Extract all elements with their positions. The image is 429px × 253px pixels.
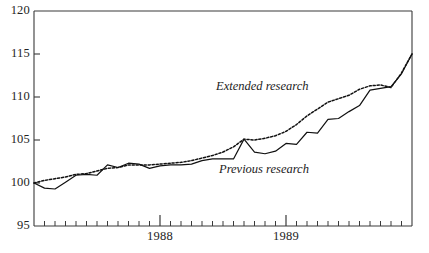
y-tick-label: 100: [0, 175, 30, 190]
y-tick-label: 110: [0, 89, 30, 104]
chart-plot-area: [0, 0, 429, 253]
y-tick-label: 115: [0, 46, 30, 61]
x-axis-tick-marks: [45, 215, 402, 226]
x-tick-label: 1988: [130, 229, 190, 244]
chart-figure: 95100105110115120 19881989 Extended rese…: [0, 0, 429, 253]
y-tick-label: 105: [0, 132, 30, 147]
series-annotation-label: Extended research: [216, 79, 308, 94]
y-axis-tick-marks: [34, 54, 40, 183]
y-tick-label: 120: [0, 3, 30, 18]
axis-frame: [34, 11, 412, 226]
y-tick-label: 95: [0, 218, 30, 233]
series-annotation-label: Previous research: [219, 162, 309, 177]
x-tick-label: 1989: [256, 229, 316, 244]
